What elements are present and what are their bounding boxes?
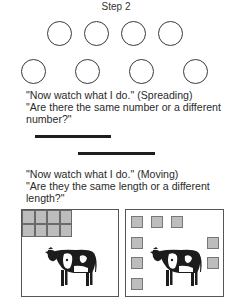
spreading-question-cont: number?" [26, 113, 72, 125]
block [171, 216, 183, 228]
counter-circle [47, 21, 72, 46]
counter-circle [21, 59, 46, 84]
counter-circle [121, 21, 146, 46]
length-bar-bottom [78, 152, 155, 155]
block [207, 257, 219, 269]
counter-circle [183, 59, 208, 84]
moving-instruction: "Now watch what I do." (Moving) [26, 168, 178, 180]
block [47, 210, 60, 224]
cow-icon [44, 246, 98, 288]
block-grid [22, 210, 72, 237]
block [35, 224, 48, 238]
length-bar-top [35, 135, 111, 138]
block [22, 210, 35, 224]
counter-circle [75, 59, 100, 84]
counter-circle [158, 21, 183, 46]
step-title: Step 2 [0, 1, 230, 13]
block [131, 278, 143, 290]
block [131, 257, 143, 269]
cow-icon [149, 246, 203, 288]
moving-question-cont: length?" [26, 192, 65, 204]
block [22, 224, 35, 238]
block [47, 224, 60, 238]
counter-circle [129, 59, 154, 84]
block [131, 216, 143, 228]
block [151, 216, 163, 228]
counter-circle [84, 21, 109, 46]
moving-question: "Are they the same length or a different [26, 180, 210, 192]
spreading-question: "Are there the same number or a differen… [26, 101, 221, 113]
block [35, 210, 48, 224]
block [131, 237, 143, 249]
spreading-instruction: "Now watch what I do." (Spreading) [26, 89, 193, 101]
block [60, 224, 73, 238]
block [60, 210, 73, 224]
block [207, 237, 219, 249]
